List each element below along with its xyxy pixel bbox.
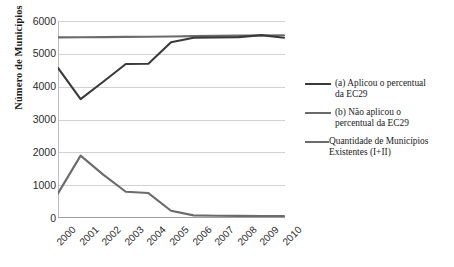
legend-label-b-line2: percentual da EC29: [335, 118, 409, 128]
series-lines: [58, 21, 285, 218]
series-line-b: [58, 156, 284, 216]
legend-label-total-line1: Quantidade de Municípios: [329, 136, 428, 146]
legend-label-a: (a) Aplicou o percentual da EC29: [335, 78, 453, 99]
legend-item-b[interactable]: (b) Não aplicou o percentual da EC29: [305, 107, 453, 129]
legend-item-a[interactable]: (a) Aplicou o percentual da EC29: [305, 78, 453, 100]
chart-legend: (a) Aplicou o percentual da EC29 (b) Não…: [305, 78, 453, 165]
line-chart-figure: Número de Municípios 6000 5000 4000 3000…: [0, 0, 454, 267]
legend-label-b-line1: (b) Não aplicou o: [335, 107, 401, 117]
legend-label-b: (b) Não aplicou o percentual da EC29: [335, 107, 453, 128]
y-tick-label: 5000: [10, 48, 56, 59]
legend-swatch-a: [305, 83, 331, 85]
legend-swatch-b: [305, 112, 331, 114]
legend-swatch-total: [305, 141, 329, 143]
y-tick-label: 1000: [10, 180, 56, 191]
legend-item-total[interactable]: Quantidade de Municípios Existentes (I+I…: [305, 136, 453, 158]
y-tick-label: 6000: [10, 16, 56, 27]
series-line-a: [58, 35, 284, 99]
legend-label-a-line2: da EC29: [335, 89, 368, 99]
plot-area: [58, 21, 285, 218]
legend-label-total: Quantidade de Municípios Existentes (I+I…: [329, 136, 453, 157]
y-tick-label: 3000: [10, 114, 56, 125]
y-tick-label: 0: [10, 213, 56, 224]
legend-label-a-line1: (a) Aplicou o percentual: [335, 78, 426, 88]
y-tick-label: 2000: [10, 147, 56, 158]
legend-label-total-line2: Existentes (I+II): [329, 147, 391, 157]
y-tick-label: 4000: [10, 81, 56, 92]
